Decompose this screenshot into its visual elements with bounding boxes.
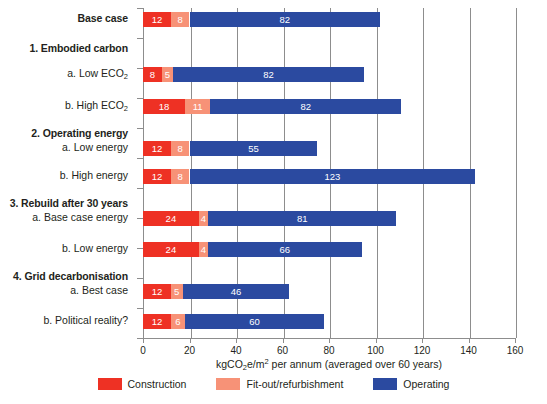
- bar-segment-fitout[interactable]: 6: [171, 314, 185, 329]
- bar-segment-operating[interactable]: 123: [190, 169, 476, 184]
- category-label-column: Base case1. Embodied carbona. Low ECO2b.…: [0, 0, 133, 338]
- category-label-subscript: 2: [124, 72, 128, 81]
- category-label-3: b. High ECO2: [65, 99, 128, 113]
- bar-row[interactable]: 12660: [143, 314, 515, 329]
- bar-segment-fitout[interactable]: 8: [171, 169, 190, 184]
- y-tick-10: [137, 308, 143, 309]
- legend-label: Fit-out/refurbishment: [246, 378, 343, 390]
- bar-segment-operating[interactable]: 81: [208, 211, 396, 226]
- x-axis-title-post: per annum (averaged over 60 years): [269, 358, 442, 370]
- bar-row[interactable]: 12855: [143, 141, 515, 156]
- x-tick-40: [236, 338, 237, 343]
- x-axis-title-sub: 2: [243, 363, 247, 372]
- bar-segment-fitout[interactable]: 8: [171, 141, 190, 156]
- category-label-7: 3. Rebuild after 30 years: [10, 197, 128, 209]
- x-tick-100: [376, 338, 377, 343]
- category-label-8: a. Base case energy: [32, 211, 128, 223]
- category-label-11: a. Best case: [70, 284, 128, 296]
- x-axis-title-sup: 2: [265, 357, 269, 366]
- bar-row[interactable]: 12882: [143, 12, 515, 27]
- legend-label: Construction: [128, 378, 187, 390]
- y-tick-9: [137, 278, 143, 279]
- bar-row[interactable]: 24466: [143, 242, 515, 257]
- bar-row[interactable]: 24481: [143, 211, 515, 226]
- x-axis-title-pre: kgCO: [216, 358, 243, 370]
- bar-segment-construction[interactable]: 24: [143, 211, 199, 226]
- x-tick-80: [329, 338, 330, 343]
- bar-segment-operating[interactable]: 55: [190, 141, 318, 156]
- bar-segment-construction[interactable]: 12: [143, 169, 171, 184]
- x-tick-label-80: 80: [323, 345, 334, 356]
- bar-row[interactable]: 8582: [143, 67, 515, 82]
- bar-segment-construction[interactable]: 12: [143, 314, 171, 329]
- category-label-1: 1. Embodied carbon: [29, 42, 128, 54]
- bar-segment-operating[interactable]: 82: [173, 67, 364, 82]
- bar-segment-construction[interactable]: 18: [143, 99, 185, 114]
- category-label-12: b. Political reality?: [43, 314, 128, 326]
- x-tick-label-40: 40: [230, 345, 241, 356]
- chart-legend: ConstructionFit-out/refurbishmentOperati…: [0, 378, 547, 390]
- legend-swatch-icon: [98, 378, 122, 390]
- y-tick-11: [137, 338, 143, 339]
- x-tick-label-100: 100: [367, 345, 384, 356]
- category-label-subscript: 2: [124, 104, 128, 113]
- x-tick-label-20: 20: [184, 345, 195, 356]
- x-tick-label-140: 140: [460, 345, 477, 356]
- x-tick-label-120: 120: [414, 345, 431, 356]
- legend-label: Operating: [403, 378, 449, 390]
- x-tick-label-60: 60: [277, 345, 288, 356]
- bar-segment-fitout[interactable]: 11: [185, 99, 211, 114]
- bar-segment-operating[interactable]: 46: [183, 284, 290, 299]
- bar-segment-construction[interactable]: 12: [143, 141, 171, 156]
- legend-swatch-icon: [373, 378, 397, 390]
- bar-segment-operating[interactable]: 60: [185, 314, 325, 329]
- bar-segment-operating[interactable]: 82: [190, 12, 381, 27]
- y-tick-6: [137, 188, 143, 189]
- x-tick-label-0: 0: [140, 345, 146, 356]
- bar-row[interactable]: 128123: [143, 169, 515, 184]
- bar-segment-construction[interactable]: 12: [143, 284, 171, 299]
- x-tick-160: [515, 338, 516, 343]
- x-axis-title-mid: e/m: [247, 358, 265, 370]
- legend-item-2[interactable]: Operating: [373, 378, 449, 390]
- bar-segment-construction[interactable]: 12: [143, 12, 171, 27]
- category-label-0: Base case: [78, 12, 128, 24]
- category-label-text: a. Low ECO: [67, 67, 124, 79]
- bar-segment-fitout[interactable]: 4: [199, 211, 208, 226]
- bar-segment-fitout[interactable]: 5: [162, 67, 174, 82]
- x-tick-label-160: 160: [507, 345, 524, 356]
- bar-segment-operating[interactable]: 82: [210, 99, 401, 114]
- gridline-160: [516, 8, 517, 338]
- x-axis-title: kgCO2e/m2 per annum (averaged over 60 ye…: [143, 358, 515, 370]
- category-label-5: a. Low energy: [62, 141, 128, 153]
- bar-segment-construction[interactable]: 24: [143, 242, 199, 257]
- y-tick-1: [137, 38, 143, 39]
- legend-swatch-icon: [216, 378, 240, 390]
- legend-item-1[interactable]: Fit-out/refurbishment: [216, 378, 343, 390]
- x-tick-120: [422, 338, 423, 343]
- bar-row[interactable]: 12546: [143, 284, 515, 299]
- category-label-4: 2. Operating energy: [31, 127, 128, 139]
- y-tick-5: [137, 158, 143, 159]
- y-tick-4: [137, 128, 143, 129]
- category-label-9: b. Low energy: [62, 242, 128, 254]
- bar-segment-fitout[interactable]: 5: [171, 284, 183, 299]
- x-tick-20: [190, 338, 191, 343]
- x-tick-0: [143, 338, 144, 343]
- category-label-6: b. High energy: [60, 169, 128, 181]
- y-tick-0: [137, 8, 143, 9]
- category-label-2: a. Low ECO2: [67, 67, 128, 81]
- category-label-10: 4. Grid decarbonisation: [13, 270, 128, 282]
- bar-segment-construction[interactable]: 8: [143, 67, 162, 82]
- category-label-text: b. High ECO: [65, 99, 124, 111]
- bar-segment-fitout[interactable]: 4: [199, 242, 208, 257]
- chart-root: Base case1. Embodied carbona. Low ECO2b.…: [0, 0, 547, 404]
- x-tick-140: [469, 338, 470, 343]
- bar-segment-fitout[interactable]: 8: [171, 12, 190, 27]
- bar-row[interactable]: 181182: [143, 99, 515, 114]
- bar-segment-operating[interactable]: 66: [208, 242, 361, 257]
- legend-item-0[interactable]: Construction: [98, 378, 187, 390]
- x-tick-60: [283, 338, 284, 343]
